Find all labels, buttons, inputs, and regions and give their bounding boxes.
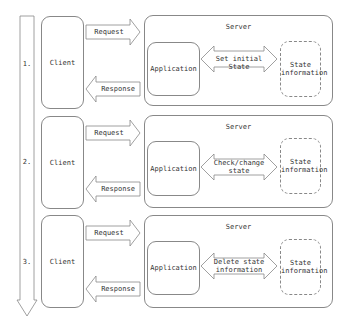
client-box-2: Client bbox=[41, 116, 84, 209]
step-number-2: 2. bbox=[20, 158, 34, 166]
server-label-1: Server bbox=[145, 23, 332, 31]
client-label-1: Client bbox=[42, 59, 83, 67]
response-label-2: Response bbox=[96, 185, 140, 193]
state-info-label-1: State information bbox=[281, 61, 320, 77]
action-label-3: Delete state information bbox=[212, 258, 266, 274]
application-label-2: Application bbox=[148, 165, 199, 173]
step-number-1: 1. bbox=[20, 60, 34, 68]
request-label-1: Request bbox=[88, 28, 130, 36]
state-info-box-3: State information bbox=[280, 239, 321, 295]
application-label-3: Application bbox=[148, 264, 199, 272]
step-number-3: 3. bbox=[20, 258, 34, 266]
state-info-box-1: State information bbox=[280, 41, 321, 97]
response-label-3: Response bbox=[96, 285, 140, 293]
request-label-2: Request bbox=[88, 129, 130, 137]
client-label-2: Client bbox=[42, 159, 83, 167]
server-label-3: Server bbox=[145, 223, 332, 231]
server-label-2: Server bbox=[145, 123, 332, 131]
state-info-label-2: State information bbox=[281, 158, 320, 174]
state-info-box-2: State information bbox=[280, 138, 321, 194]
application-box-3: Application bbox=[147, 241, 200, 295]
response-label-1: Response bbox=[96, 85, 140, 93]
action-label-2: Check/change state bbox=[212, 159, 266, 175]
request-label-3: Request bbox=[88, 229, 130, 237]
application-box-2: Application bbox=[147, 141, 200, 196]
state-info-label-3: State information bbox=[281, 259, 320, 275]
action-label-1: Set initial State bbox=[214, 55, 264, 71]
application-label-1: Application bbox=[148, 65, 199, 73]
client-label-3: Client bbox=[42, 258, 83, 266]
client-box-3: Client bbox=[41, 215, 84, 308]
client-box-1: Client bbox=[41, 16, 84, 109]
application-box-1: Application bbox=[147, 42, 200, 96]
